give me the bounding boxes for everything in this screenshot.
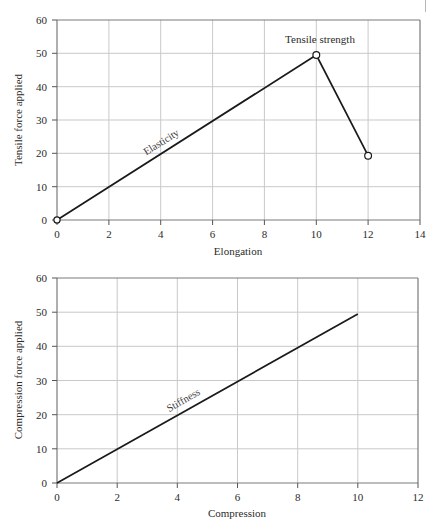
- compression-ytick-10: 10: [36, 443, 48, 455]
- tensile-xtick-4: 4: [158, 228, 164, 240]
- tensile-marker-origin: [54, 217, 60, 223]
- tensile-gridlines-horizontal: [57, 53, 420, 186]
- compression-xtick-4: 4: [175, 491, 181, 503]
- tensile-marker-break: [365, 152, 372, 159]
- tensile-xtick-0: 0: [54, 228, 60, 240]
- tensile-x-ticks: [57, 220, 420, 225]
- compression-x-ticks: [57, 483, 418, 488]
- compression-x-axis-title: Compression: [208, 507, 267, 519]
- tensile-xtick-12: 12: [363, 228, 374, 240]
- tensile-y-axis-title: Tensile force applied: [12, 73, 24, 166]
- tensile-ytick-50: 50: [36, 47, 48, 59]
- compression-x-tick-labels: 0 2 4 6 8 10 12: [54, 491, 423, 503]
- compression-xtick-12: 12: [413, 491, 424, 503]
- tensile-ytick-30: 30: [36, 114, 48, 126]
- tensile-xtick-14: 14: [415, 228, 427, 240]
- compression-ytick-60: 60: [36, 272, 48, 284]
- two-panel-figure: 0 10 20 30 40 50 60 0 2 4 6 8 10 12 14 E…: [0, 0, 437, 525]
- tensile-ytick-60: 60: [36, 14, 48, 26]
- tensile-ytick-20: 20: [36, 147, 48, 159]
- compression-xtick-0: 0: [54, 491, 60, 503]
- stiffness-label: Stiffness: [165, 386, 202, 414]
- stiffness-line: [57, 314, 358, 483]
- tensile-xtick-8: 8: [262, 228, 268, 240]
- tensile-strength-callout: Tensile strength: [285, 33, 355, 45]
- tensile-ytick-0: 0: [42, 214, 48, 226]
- compression-chart: 0 10 20 30 40 50 60 0 2 4 6 8 10 12 Comp…: [12, 272, 424, 519]
- tensile-chart: 0 10 20 30 40 50 60 0 2 4 6 8 10 12 14 E…: [12, 14, 426, 257]
- compression-xtick-2: 2: [114, 491, 120, 503]
- compression-ytick-30: 30: [36, 375, 48, 387]
- tensile-xtick-10: 10: [311, 228, 323, 240]
- compression-ytick-50: 50: [36, 306, 48, 318]
- tensile-xtick-2: 2: [106, 228, 112, 240]
- compression-y-ticks: [52, 278, 57, 483]
- compression-ytick-0: 0: [42, 477, 48, 489]
- tensile-ytick-10: 10: [36, 181, 48, 193]
- tensile-y-ticks: [52, 20, 57, 220]
- tensile-ytick-40: 40: [36, 81, 48, 93]
- compression-ytick-20: 20: [36, 409, 48, 421]
- tensile-y-tick-labels: 0 10 20 30 40 50 60: [36, 14, 48, 226]
- compression-xtick-10: 10: [352, 491, 364, 503]
- tensile-xtick-6: 6: [210, 228, 216, 240]
- compression-xtick-6: 6: [235, 491, 241, 503]
- compression-xtick-8: 8: [295, 491, 301, 503]
- compression-y-axis-title: Compression force applied: [12, 320, 24, 439]
- figure-canvas: 0 10 20 30 40 50 60 0 2 4 6 8 10 12 14 E…: [0, 0, 437, 525]
- compression-y-tick-labels: 0 10 20 30 40 50 60: [36, 272, 48, 489]
- tensile-x-axis-title: Elongation: [214, 245, 263, 257]
- compression-ytick-40: 40: [36, 340, 48, 352]
- tensile-x-tick-labels: 0 2 4 6 8 10 12 14: [54, 228, 426, 240]
- tensile-marker-peak: [313, 52, 320, 59]
